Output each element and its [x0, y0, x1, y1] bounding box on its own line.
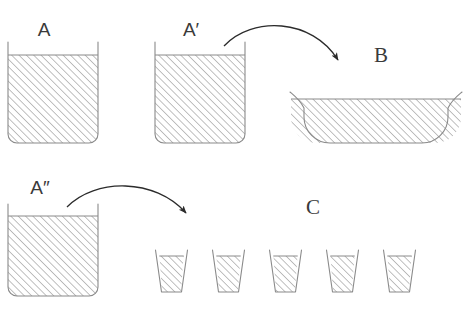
cup-5-liquid-hatch	[383, 256, 416, 292]
label-a-double-prime: A″	[30, 177, 50, 198]
cup-1-liquid-hatch	[155, 256, 188, 292]
label-a: A	[38, 19, 51, 40]
container-a-prime-liquid-hatch	[155, 55, 245, 143]
vessel-container-a-double-prime	[8, 204, 98, 296]
container-a-liquid-hatch	[8, 55, 98, 143]
cup-4-liquid-hatch	[326, 256, 359, 292]
vessel-bowl-b	[290, 92, 462, 144]
cup-4	[326, 250, 359, 292]
cup-1	[155, 250, 188, 292]
container-a-double-prime-liquid-hatch	[8, 216, 98, 296]
arrow-a-double-prime-to-c	[67, 186, 186, 213]
volume-conservation-diagram: A A′ B A″ C	[0, 0, 468, 332]
cups-group-c	[155, 250, 416, 292]
label-a-prime: A′	[183, 19, 200, 40]
vessel-container-a	[8, 42, 98, 143]
bowl-b-liquid-hatch	[290, 99, 462, 144]
label-b: B	[374, 43, 388, 67]
cup-2-liquid-hatch	[212, 256, 245, 292]
cup-2	[212, 250, 245, 292]
cup-3	[269, 250, 302, 292]
vessel-container-a-prime	[155, 42, 245, 143]
label-c: C	[306, 195, 320, 219]
diagram-canvas: A A′ B A″ C	[0, 0, 468, 332]
cup-3-liquid-hatch	[269, 256, 302, 292]
cup-5	[383, 250, 416, 292]
